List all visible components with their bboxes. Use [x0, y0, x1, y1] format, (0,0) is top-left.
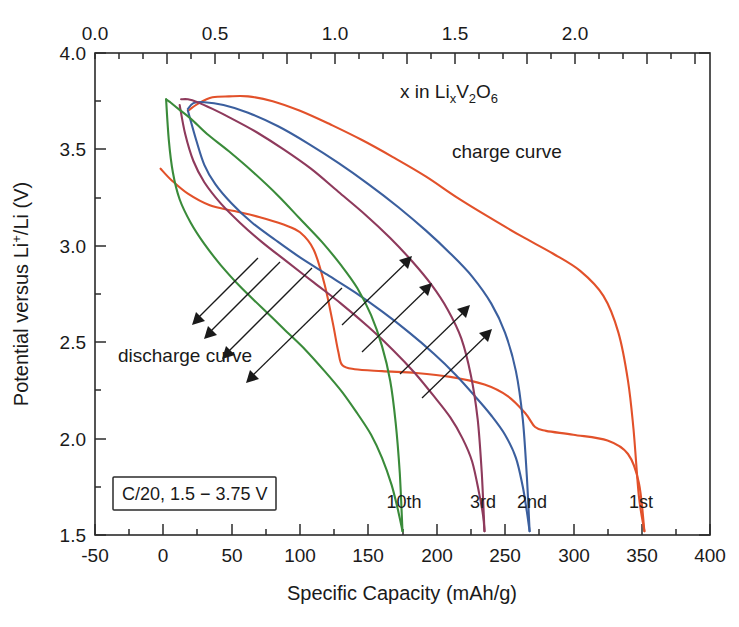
xtop-tick-label: 1.0: [322, 23, 348, 44]
x-axis-label: Specific Capacity (mAh/g): [287, 582, 517, 604]
ytick-label: 3.0: [60, 236, 86, 257]
x-axis-top-ticklabels: 0.0 0.5 1.0 1.5 2.0: [82, 23, 588, 44]
plot-frame: [95, 53, 710, 535]
y-axis-ticks: [95, 53, 710, 535]
xtick-label: 350: [626, 545, 658, 566]
cycle-label-2nd: 2nd: [517, 492, 547, 512]
cycle-label-10th: 10th: [386, 492, 421, 512]
xtick-label: 250: [489, 545, 521, 566]
xtick-label: 100: [284, 545, 316, 566]
xtick-label: 0: [158, 545, 169, 566]
xtick-label: -50: [81, 545, 108, 566]
y-axis-label-main: Potential versus Li: [10, 243, 32, 406]
xtick-label: 400: [694, 545, 726, 566]
ytick-label: 1.5: [60, 525, 86, 546]
xtop-tick-label: 0.0: [82, 23, 108, 44]
xtop-tick-label: 0.5: [202, 23, 228, 44]
xtick-label: 150: [352, 545, 384, 566]
y-axis-label: Potential versus Li+/Li (V): [9, 182, 32, 406]
ytick-label: 4.0: [60, 43, 86, 64]
charge-curve-annotation: charge curve: [452, 141, 562, 162]
ytick-label: 2.0: [60, 429, 86, 450]
xtick-label: 300: [558, 545, 590, 566]
top-axis-chem-label: x in LixV2O6: [400, 81, 498, 106]
cycle-label-1st: 1st: [629, 492, 653, 512]
x-axis-top-ticks: [95, 53, 695, 64]
discharge-curve-annotation: discharge curve: [118, 345, 252, 366]
ytick-label: 3.5: [60, 139, 86, 160]
chart-figure: -50 0 50 100 150 200 250 300 350 400 Spe…: [0, 0, 739, 627]
xtop-tick-label: 2.0: [562, 23, 588, 44]
svg-text:Potential versus Li+/Li (V): Potential versus Li+/Li (V): [9, 182, 32, 406]
x-axis-bottom-ticklabels: -50 0 50 100 150 200 250 300 350 400: [81, 545, 726, 566]
curve-2nd-discharge: [188, 102, 530, 531]
cycle-label-3rd: 3rd: [470, 492, 496, 512]
xtop-tick-label: 1.5: [442, 23, 468, 44]
curve-2nd-charge: [188, 111, 530, 531]
condition-box-label: C/20, 1.5 − 3.75 V: [122, 484, 268, 504]
y-axis-ticklabels: 4.0 3.5 3.0 2.5 2.0 1.5: [60, 43, 86, 546]
ytick-label: 2.5: [60, 332, 86, 353]
curve-1st-discharge: [188, 96, 645, 531]
xtick-label: 200: [421, 545, 453, 566]
xtick-label: 50: [221, 545, 242, 566]
